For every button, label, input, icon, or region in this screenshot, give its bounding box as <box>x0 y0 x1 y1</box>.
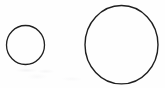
two-circles-drawing <box>0 0 165 88</box>
canvas-background <box>0 0 165 88</box>
figure-canvas <box>0 0 165 88</box>
